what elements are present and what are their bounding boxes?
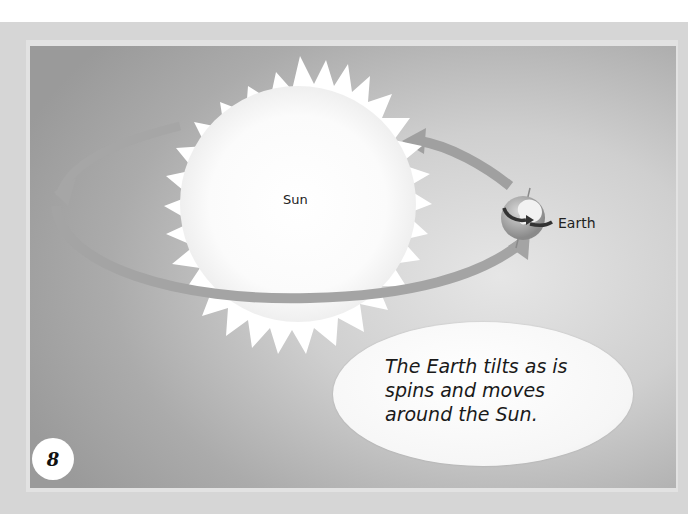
- page-number: 8: [47, 449, 60, 470]
- earth-icon: [501, 188, 552, 248]
- caption-bubble: The Earth tilts as is spins and moves ar…: [333, 322, 633, 466]
- caption-text: The Earth tilts as is spins and moves ar…: [385, 354, 615, 426]
- sun-label: Sun: [283, 192, 308, 207]
- earth-label: Earth: [558, 215, 596, 231]
- illustration-panel: Sun Earth The Earth tilts as is spins an…: [30, 46, 676, 488]
- page-number-badge: 8: [32, 438, 74, 480]
